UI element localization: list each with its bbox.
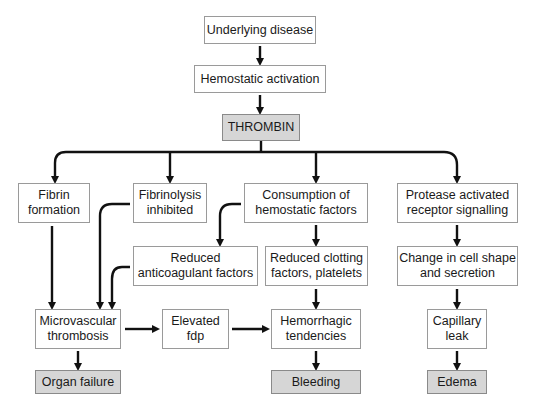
node-edema: Edema: [427, 370, 487, 394]
node-thrombin: THROMBIN: [222, 114, 300, 141]
node-capillary-leak: Capillary leak: [427, 309, 487, 349]
node-underlying-disease: Underlying disease: [204, 16, 316, 44]
node-reduced-anticoagulant: Reduced anticoagulant factors: [133, 246, 258, 286]
node-microvascular-thrombosis: Microvascular thrombosis: [35, 309, 121, 349]
node-hemorrhagic-tendencies: Hemorrhagic tendencies: [271, 309, 361, 349]
node-protease-activated-receptor: Protease activated receptor signalling: [397, 183, 518, 223]
node-fibrin-formation: Fibrin formation: [18, 183, 90, 223]
node-consumption-hemostatic-factors: Consumption of hemostatic factors: [244, 183, 368, 223]
node-elevated-fdp: Elevated fdp: [162, 309, 229, 349]
node-organ-failure: Organ failure: [35, 370, 121, 394]
dic-pathophysiology-diagram: Underlying disease Hemostatic activation…: [0, 0, 536, 410]
node-reduced-clotting: Reduced clotting factors, platelets: [265, 246, 368, 286]
node-bleeding: Bleeding: [271, 370, 361, 394]
node-hemostatic-activation: Hemostatic activation: [194, 65, 326, 93]
node-fibrinolysis-inhibited: Fibrinolysis inhibited: [133, 183, 207, 223]
node-cell-shape-change: Change in cell shape and secretion: [397, 246, 518, 286]
